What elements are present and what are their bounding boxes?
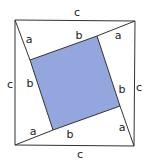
side-label: a (119, 121, 126, 134)
side-label: a (26, 33, 33, 46)
side-label: a (30, 125, 37, 138)
side-label: b (67, 128, 74, 141)
side-label: c (77, 148, 83, 160)
side-label: b (27, 77, 34, 90)
side-label: c (136, 81, 142, 94)
diagram: cabacbbcabac (0, 0, 146, 160)
side-label: a (115, 29, 122, 42)
side-label: b (119, 83, 126, 96)
side-label: c (7, 78, 13, 91)
side-label: c (74, 6, 80, 19)
side-label: b (76, 29, 83, 42)
